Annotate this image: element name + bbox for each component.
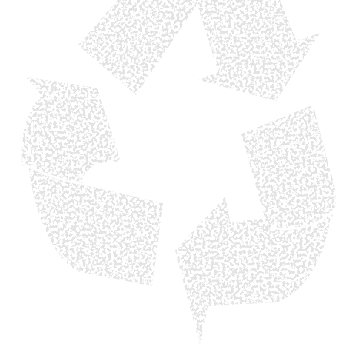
recycling-symbol-canvas: Grey distressed recycling symbol with th…: [0, 0, 361, 347]
right-arrow-band: [241, 105, 336, 230]
left-arrow-upper: [22, 77, 118, 182]
recycle-icon: [0, 0, 361, 347]
top-arrow-head: [196, 0, 320, 101]
top-arrow-tail: [78, 0, 200, 95]
right-arrow-head: [175, 196, 330, 345]
